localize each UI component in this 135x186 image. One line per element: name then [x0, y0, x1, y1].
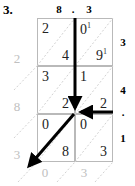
top-label-digit-1: 3: [82, 4, 96, 15]
diagonal-ext-left-2: [18, 162, 37, 182]
cell-lower-digit: 9: [96, 48, 103, 63]
result-left-digit-2: 3: [10, 148, 24, 161]
side-label-digit-2: 1: [117, 133, 129, 144]
lattice-grid: 2 4 01 91 3 2 1 2 0 8 0 3: [37, 18, 113, 162]
side-label-decimal-point: .: [117, 107, 129, 118]
cell-lower-value: 2: [62, 97, 69, 111]
cell-upper-value: 0: [42, 118, 49, 132]
cell-lower-carry: 1: [103, 47, 107, 56]
cell-upper-value: 3: [42, 70, 49, 84]
cell-upper-carry: 1: [87, 21, 91, 30]
cell-lower-value: 2: [100, 97, 107, 111]
side-label-digit-1: 4: [117, 85, 129, 96]
result-left-digit-0: 2: [10, 52, 24, 65]
lattice-multiplication-figure: 3. 8 . 3 3 4 . 1 2 8 3 0 3 2 4 01 91 3 2…: [0, 0, 135, 186]
diagonal-ext-bottom-0: [57, 162, 75, 182]
lattice-cell-r0c0: 2 4: [37, 18, 75, 66]
cell-lower-value: 4: [62, 49, 69, 63]
cell-upper-digit: 0: [80, 22, 87, 37]
result-left-digit-1: 8: [10, 100, 24, 113]
lattice-cell-r2c1: 0 3: [75, 114, 113, 162]
problem-number: 3.: [3, 3, 13, 16]
top-label-decimal-point: .: [68, 4, 78, 15]
cell-upper-value: 2: [42, 22, 49, 36]
cell-lower-value: 91: [96, 48, 107, 63]
diagonal-ext-left-1: [14, 114, 37, 138]
cell-lower-value: 8: [62, 145, 69, 159]
lattice-cell-r1c0: 3 2: [37, 66, 75, 114]
result-bottom-digit-0: 0: [38, 166, 52, 179]
diagonal-ext-bottom-1: [95, 162, 113, 182]
cell-upper-value: 0: [80, 118, 87, 132]
cell-upper-value: 1: [80, 70, 87, 84]
lattice-cell-r1c1: 1 2: [75, 66, 113, 114]
result-bottom-digit-1: 3: [77, 166, 91, 179]
top-label-digit-0: 8: [52, 4, 66, 15]
lattice-cell-r0c1: 01 91: [75, 18, 113, 66]
diagonal-ext-left-0: [14, 66, 37, 90]
cell-lower-value: 3: [100, 145, 107, 159]
lattice-cell-r2c0: 0 8: [37, 114, 75, 162]
side-label-digit-0: 3: [117, 37, 129, 48]
cell-upper-value: 01: [80, 22, 91, 37]
